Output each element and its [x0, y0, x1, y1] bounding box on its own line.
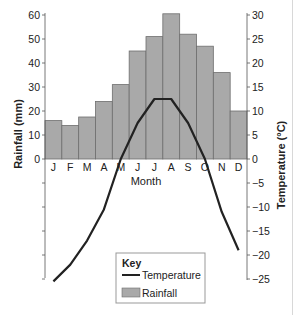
month-label: J — [51, 161, 56, 173]
x-axis-title: Month — [131, 175, 162, 187]
rainfall-bar — [79, 117, 96, 159]
left-axis-title: Rainfall (mm) — [12, 99, 24, 169]
left-axis-rainfall: 0102030405060 — [28, 9, 45, 280]
rainfall-bar — [129, 51, 146, 159]
rainfall-bar — [96, 101, 113, 159]
month-label: J — [135, 161, 140, 173]
right-tick-label: 0 — [252, 153, 258, 165]
month-label: A — [168, 161, 175, 173]
right-tick-label: −10 — [252, 201, 270, 213]
rainfall-bar — [180, 34, 197, 159]
right-tick-label: −20 — [252, 249, 270, 261]
right-tick-label: 30 — [252, 9, 264, 21]
right-tick-label: 15 — [252, 81, 264, 93]
rainfall-bar — [163, 14, 180, 159]
right-tick-label: 20 — [252, 57, 264, 69]
rainfall-bar — [62, 125, 79, 159]
left-tick-label: 0 — [34, 153, 40, 165]
rainfall-bar — [146, 37, 163, 159]
month-label: M — [83, 161, 92, 173]
legend-temperature-label: Temperature — [142, 269, 201, 281]
image-border — [292, 0, 293, 315]
left-tick-label: 20 — [28, 105, 40, 117]
legend-key: Key Temperature Rainfall — [116, 253, 205, 303]
rainfall-bars — [45, 14, 247, 159]
right-tick-label: 10 — [252, 105, 264, 117]
right-axis-title: Temperature (°C) — [275, 120, 287, 209]
right-axis-temperature: 302520151050−5−10−15−20−25 — [247, 9, 270, 285]
month-label: F — [67, 161, 73, 173]
rainfall-bar — [213, 73, 230, 159]
rainfall-bar — [197, 46, 214, 159]
month-label: N — [218, 161, 226, 173]
right-tick-label: 5 — [252, 129, 258, 141]
left-tick-label: 10 — [28, 129, 40, 141]
right-tick-label: 25 — [252, 33, 264, 45]
left-tick-label: 30 — [28, 81, 40, 93]
rainfall-bar — [230, 111, 247, 159]
climate-chart: 0102030405060 302520151050−5−10−15−20−25… — [0, 0, 297, 315]
right-tick-label: −5 — [252, 177, 264, 189]
legend-rainfall-label: Rainfall — [142, 287, 177, 299]
month-labels: JFMAMJJASOND — [51, 161, 243, 173]
left-tick-label: 60 — [28, 9, 40, 21]
month-label: D — [235, 161, 243, 173]
legend-rainfall-swatch — [122, 288, 140, 297]
left-tick-label: 50 — [28, 33, 40, 45]
right-tick-label: −25 — [252, 273, 270, 285]
left-tick-label: 40 — [28, 57, 40, 69]
rainfall-bar — [45, 121, 62, 159]
month-label: A — [100, 161, 107, 173]
right-tick-label: −15 — [252, 225, 270, 237]
legend-title: Key — [122, 257, 141, 269]
month-label: J — [152, 161, 157, 173]
month-label: S — [185, 161, 192, 173]
